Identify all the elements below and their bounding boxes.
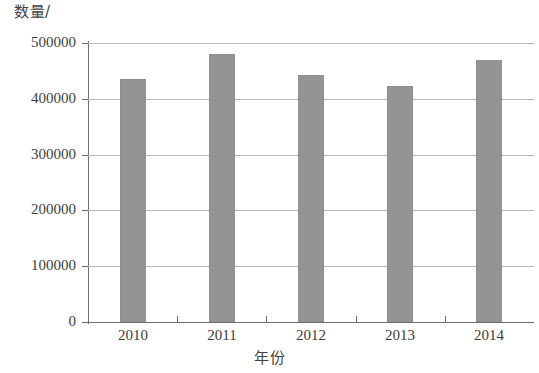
y-axis-tick-label: 300000 [0,147,76,162]
y-axis-title: 数量/ [14,2,51,22]
gridline [88,322,534,323]
x-axis-tick-mark [266,316,267,323]
y-axis-tick-label: 400000 [0,91,76,106]
x-axis-tick-label: 2014 [449,327,529,344]
bar [120,79,146,322]
x-axis-title: 年份 [0,348,539,368]
bar [387,86,413,322]
bar-chart: 数量/ 0100000200000300000400000500000 2010… [0,0,539,373]
x-axis-tick-label: 2011 [182,327,262,344]
x-axis-tick-mark [177,316,178,323]
y-axis-tick-label: 100000 [0,258,76,273]
gridline [88,43,534,44]
y-axis-tick-label: 500000 [0,35,76,50]
bar [209,54,235,322]
y-axis-tick-label: 0 [0,314,76,329]
y-axis-tick-label: 200000 [0,202,76,217]
x-axis-tick-label: 2012 [271,327,351,344]
x-axis-tick-mark [445,316,446,323]
x-axis-tick-label: 2013 [360,327,440,344]
bar [298,75,324,322]
x-axis-tick-label: 2010 [93,327,173,344]
x-axis-tick-mark [356,316,357,323]
bar [476,60,502,322]
plot-area [88,43,534,322]
